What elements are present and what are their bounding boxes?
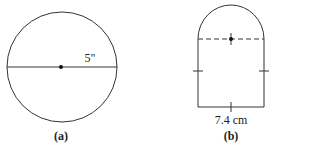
semicircle-center-dot: [229, 37, 233, 41]
rect-semicircle-outline: [198, 5, 264, 107]
caption-a: (a): [54, 129, 68, 144]
caption-b: (b): [224, 129, 239, 144]
width-label: 7.4 cm: [215, 113, 248, 128]
circle-center-dot: [59, 65, 63, 69]
figure-b-shape: [193, 5, 269, 112]
diameter-label: 5": [85, 51, 96, 66]
